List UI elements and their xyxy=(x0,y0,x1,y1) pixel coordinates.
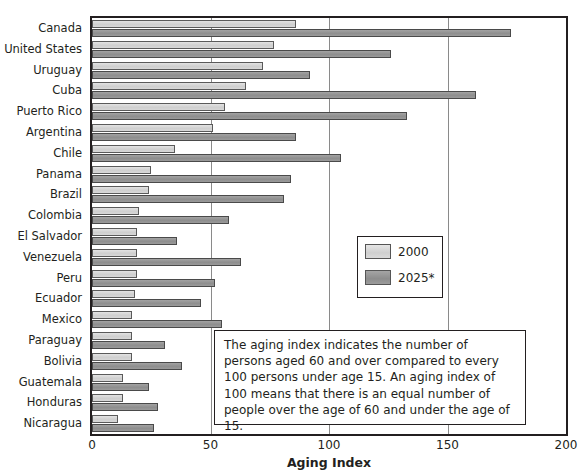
bar-2025-canada xyxy=(92,29,511,37)
x-tick-label-200: 200 xyxy=(555,438,578,452)
bar-2000-uruguay xyxy=(92,62,263,70)
bar-2000-ecuador xyxy=(92,290,135,298)
y-label-puerto-rico: Puerto Rico xyxy=(16,101,82,122)
bar-2025-colombia xyxy=(92,216,229,224)
bar-group xyxy=(92,269,566,290)
bar-2000-colombia xyxy=(92,207,139,215)
legend-swatch-2025 xyxy=(365,270,391,285)
x-axis-tick-labels: 050100150200 xyxy=(90,438,568,454)
bar-2000-nicaragua xyxy=(92,415,118,423)
bar-2025-honduras xyxy=(92,403,158,411)
bar-2000-panama xyxy=(92,166,151,174)
bar-2025-argentina xyxy=(92,133,296,141)
y-label-argentina: Argentina xyxy=(26,122,82,143)
bar-2000-paraguay xyxy=(92,332,132,340)
bar-group xyxy=(92,206,566,227)
bar-2000-chile xyxy=(92,145,175,153)
bar-group xyxy=(92,248,566,269)
bar-2000-mexico xyxy=(92,311,132,319)
bar-2025-guatemala xyxy=(92,383,149,391)
bar-2025-uruguay xyxy=(92,71,310,79)
y-label-bolivia: Bolivia xyxy=(44,351,82,372)
y-label-venezuela: Venezuela xyxy=(23,247,82,268)
x-tick-label-150: 150 xyxy=(436,438,459,452)
y-label-brazil: Brazil xyxy=(50,184,82,205)
bar-2000-guatemala xyxy=(92,374,123,382)
bar-2025-cuba xyxy=(92,91,476,99)
bar-2000-cuba xyxy=(92,82,246,90)
bar-2025-puerto-rico xyxy=(92,112,407,120)
bar-2025-panama xyxy=(92,175,291,183)
bar-2025-brazil xyxy=(92,195,284,203)
bar-group xyxy=(92,61,566,82)
chart-legend: 2000 2025* xyxy=(357,236,443,298)
x-tick-label-100: 100 xyxy=(318,438,341,452)
y-label-nicaragua: Nicaragua xyxy=(23,413,82,434)
x-tick-label-0: 0 xyxy=(88,438,96,452)
aging-index-bar-chart: CanadaUnited StatesUruguayCubaPuerto Ric… xyxy=(0,0,587,474)
bar-2000-honduras xyxy=(92,394,123,402)
bar-2000-brazil xyxy=(92,186,149,194)
bar-2025-mexico xyxy=(92,320,222,328)
bar-2025-ecuador xyxy=(92,299,201,307)
bar-group xyxy=(92,227,566,248)
bar-group xyxy=(92,310,566,331)
bar-2000-venezuela xyxy=(92,249,137,257)
y-label-guatemala: Guatemala xyxy=(19,372,82,393)
bar-group xyxy=(92,144,566,165)
legend-label-2025: 2025* xyxy=(398,268,435,288)
y-label-el-salvador: El Salvador xyxy=(17,226,82,247)
bar-2025-paraguay xyxy=(92,341,165,349)
bar-2025-nicaragua xyxy=(92,424,154,432)
bar-2000-peru xyxy=(92,270,137,278)
bar-group xyxy=(92,185,566,206)
bar-2025-el-salvador xyxy=(92,237,177,245)
bar-2025-chile xyxy=(92,154,341,162)
y-label-honduras: Honduras xyxy=(27,392,82,413)
y-axis-category-labels: CanadaUnited StatesUruguayCubaPuerto Ric… xyxy=(0,16,86,436)
bar-2025-bolivia xyxy=(92,362,182,370)
x-tick-label-50: 50 xyxy=(203,438,218,452)
y-label-panama: Panama xyxy=(36,164,82,185)
bar-2025-united-states xyxy=(92,50,391,58)
aging-index-note: The aging index indicates the number of … xyxy=(214,330,526,425)
bar-group xyxy=(92,123,566,144)
bar-group xyxy=(92,289,566,310)
y-label-canada: Canada xyxy=(38,18,82,39)
bar-group xyxy=(92,40,566,61)
y-label-uruguay: Uruguay xyxy=(33,60,82,81)
y-label-united-states: United States xyxy=(4,39,82,60)
bar-2025-venezuela xyxy=(92,258,241,266)
legend-swatch-2000 xyxy=(365,244,391,259)
bar-2000-puerto-rico xyxy=(92,103,225,111)
x-axis-title: Aging Index xyxy=(90,455,568,470)
bar-2000-bolivia xyxy=(92,353,132,361)
y-label-chile: Chile xyxy=(53,143,82,164)
y-label-colombia: Colombia xyxy=(28,205,82,226)
y-label-paraguay: Paraguay xyxy=(28,330,82,351)
bar-group xyxy=(92,19,566,40)
y-label-ecuador: Ecuador xyxy=(35,288,82,309)
y-label-mexico: Mexico xyxy=(42,309,82,330)
bar-2000-el-salvador xyxy=(92,228,137,236)
bar-group xyxy=(92,81,566,102)
bar-group xyxy=(92,102,566,123)
bar-2025-peru xyxy=(92,279,215,287)
bar-group xyxy=(92,165,566,186)
y-label-cuba: Cuba xyxy=(52,80,82,101)
bar-2000-argentina xyxy=(92,124,213,132)
legend-label-2000: 2000 xyxy=(398,242,429,262)
y-label-peru: Peru xyxy=(56,268,82,289)
bar-2000-united-states xyxy=(92,41,274,49)
bar-2000-canada xyxy=(92,20,296,28)
